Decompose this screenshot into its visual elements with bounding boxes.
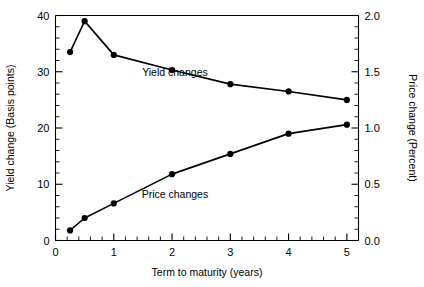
x-tick-label: 0 — [52, 246, 58, 258]
line-chart: 012345 010203040 0.00.51.01.52.0 Term to… — [0, 0, 424, 287]
y-tick-label: 40 — [37, 10, 49, 22]
data-point — [285, 88, 291, 94]
data-point — [82, 215, 88, 221]
x-tick-label: 2 — [169, 246, 175, 258]
x-axis-title: Term to maturity (years) — [152, 266, 263, 278]
data-point — [344, 97, 350, 103]
y-axis-title: Yield change (Basis points) — [4, 65, 16, 192]
data-point — [82, 18, 88, 24]
chart-background — [0, 0, 424, 287]
chart-container: 012345 010203040 0.00.51.01.52.0 Term to… — [0, 0, 424, 287]
x-tick-label: 1 — [111, 246, 117, 258]
y-tick-label: 20 — [37, 122, 49, 134]
data-point — [169, 171, 175, 177]
data-point — [285, 131, 291, 137]
x-tick-label: 5 — [344, 246, 350, 258]
data-point — [111, 52, 117, 58]
y2-tick-label: 0.0 — [365, 235, 380, 247]
series-label-yield-changes: Yield changes — [142, 66, 208, 78]
data-point — [67, 49, 73, 55]
y2-tick-label: 2.0 — [365, 10, 380, 22]
y-tick-label: 10 — [37, 178, 49, 190]
y2-tick-label: 1.5 — [365, 66, 380, 78]
x-tick-label: 3 — [227, 246, 233, 258]
data-point — [111, 200, 117, 206]
y2-tick-label: 0.5 — [365, 178, 380, 190]
y2-axis-title: Price change (Percent) — [407, 74, 419, 181]
data-point — [344, 122, 350, 128]
y2-tick-label: 1.0 — [365, 122, 380, 134]
data-point — [67, 227, 73, 233]
data-point — [227, 151, 233, 157]
series-label-price-changes: Price changes — [142, 188, 209, 200]
data-point — [227, 81, 233, 87]
y-tick-label: 30 — [37, 66, 49, 78]
y-tick-label: 0 — [43, 235, 49, 247]
x-tick-label: 4 — [286, 246, 292, 258]
